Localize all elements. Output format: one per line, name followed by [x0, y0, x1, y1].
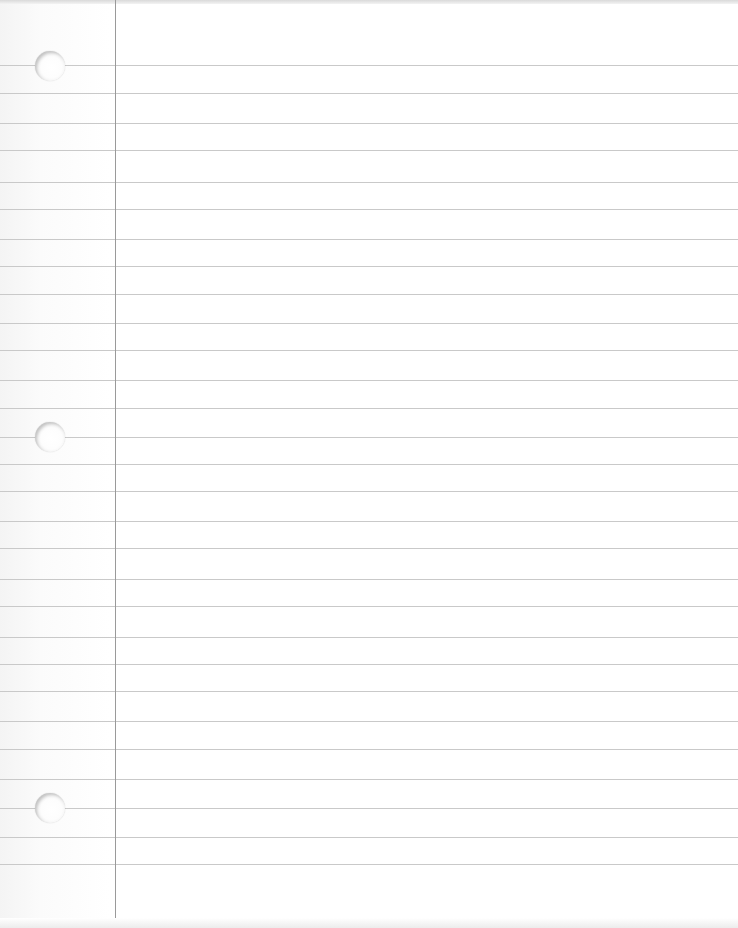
ruled-line: [0, 323, 738, 324]
punch-hole: [35, 51, 65, 81]
ruled-line: [0, 548, 738, 549]
ruled-line: [0, 239, 738, 240]
ruled-line: [0, 150, 738, 151]
ruled-line: [0, 464, 738, 465]
ruled-line: [0, 93, 738, 94]
ruled-line: [0, 664, 738, 665]
ruled-line: [0, 437, 738, 438]
margin-line: [115, 0, 116, 926]
ruled-line: [0, 408, 738, 409]
ruled-line: [0, 864, 738, 865]
ruled-line: [0, 749, 738, 750]
ruled-line: [0, 721, 738, 722]
ruled-line: [0, 380, 738, 381]
ruled-line: [0, 606, 738, 607]
ruled-line: [0, 294, 738, 295]
ruled-line: [0, 779, 738, 780]
ruled-line: [0, 521, 738, 522]
ruled-line: [0, 808, 738, 809]
punch-hole: [35, 422, 65, 452]
ruled-line: [0, 491, 738, 492]
ruled-line: [0, 837, 738, 838]
notebook-paper: [0, 0, 738, 928]
ruled-line: [0, 266, 738, 267]
paper-top-edge: [0, 0, 738, 4]
ruled-line: [0, 65, 738, 66]
ruled-line: [0, 182, 738, 183]
ruled-line: [0, 123, 738, 124]
ruled-line: [0, 350, 738, 351]
ruled-line: [0, 579, 738, 580]
ruled-line: [0, 637, 738, 638]
ruled-line: [0, 209, 738, 210]
ruled-line: [0, 691, 738, 692]
punch-hole: [35, 793, 65, 823]
paper-bottom-edge: [0, 918, 738, 928]
